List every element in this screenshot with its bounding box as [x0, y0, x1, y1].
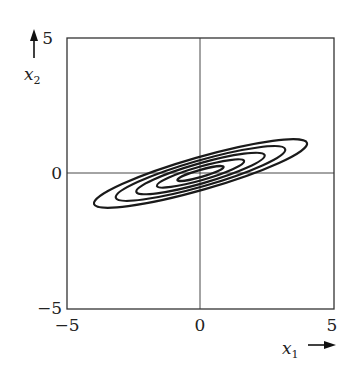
- y-axis-label: x2: [24, 64, 41, 87]
- y-axis-arrow-icon: [30, 29, 38, 58]
- x-axis-label: x1: [282, 338, 299, 361]
- x-tick-max: 5: [327, 315, 338, 335]
- y-tick-max: 5: [42, 28, 53, 48]
- x-tick-mid: 0: [195, 315, 206, 335]
- x-axis-arrow-icon: [308, 341, 336, 349]
- contour-ellipse: [134, 145, 268, 201]
- contour-ellipses: [90, 127, 312, 219]
- x-tick-min: −5: [54, 315, 79, 335]
- y-tick-mid: 0: [51, 163, 62, 183]
- contour-ellipse: [90, 127, 312, 219]
- contour-chart: 5 0 −5 −5 0 5 x2 x1: [0, 0, 359, 373]
- contour-ellipse: [112, 137, 289, 211]
- plot-frame: [67, 38, 334, 309]
